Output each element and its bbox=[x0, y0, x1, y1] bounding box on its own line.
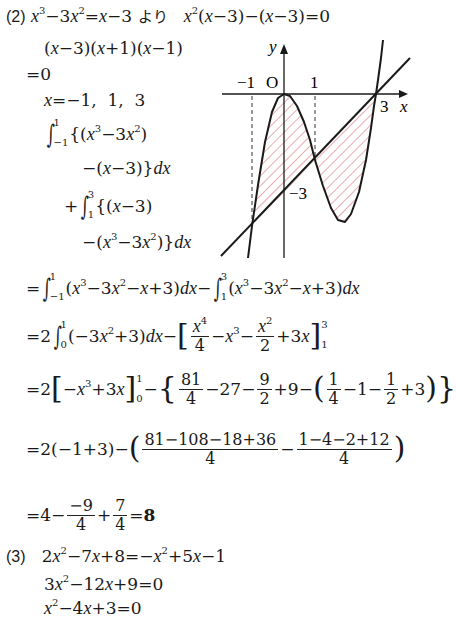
origin-label: O bbox=[266, 73, 278, 92]
tick-3: 3 bbox=[380, 97, 389, 116]
tick-neg3: −3 bbox=[289, 184, 307, 203]
tick-neg1: −1 bbox=[237, 73, 255, 92]
tick-1: 1 bbox=[310, 73, 319, 92]
y-axis-arrow-icon bbox=[280, 44, 288, 54]
x-axis-label: x bbox=[399, 97, 408, 116]
y-axis-label: y bbox=[267, 37, 277, 56]
